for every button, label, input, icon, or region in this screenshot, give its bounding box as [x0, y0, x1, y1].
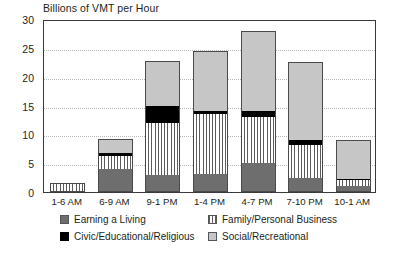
- legend-item-label: Civic/Educational/Religious: [74, 231, 195, 242]
- y-axis-tick-label: 20: [22, 72, 34, 83]
- legend-item-civic[interactable]: Civic/Educational/Religious: [60, 231, 195, 242]
- x-axis-tick-label: 9-1 PM: [138, 196, 186, 208]
- x-axis-tick-label: 1-6 AM: [43, 196, 91, 208]
- plot-inner: [44, 21, 375, 192]
- bar-segment-earning: [288, 178, 323, 192]
- y-axis-tick-label: 0: [28, 188, 34, 199]
- x-axis-tick-label: 6-9 AM: [91, 196, 139, 208]
- x-axis-tick-label: 1-4 PM: [186, 196, 234, 208]
- bar-segment-family: [288, 145, 323, 178]
- bar-segment-family: [193, 114, 228, 174]
- bar-segment-social: [145, 61, 180, 106]
- y-axis: 051015202530: [0, 20, 38, 193]
- y-axis-tick-label: 25: [22, 44, 34, 55]
- y-axis-tick-label: 5: [28, 159, 34, 170]
- legend-item-label: Family/Personal Business: [222, 214, 337, 225]
- bar-segment-earning: [50, 191, 85, 192]
- bar-segment-social: [98, 139, 133, 153]
- legend-swatch-civic-icon: [60, 232, 69, 241]
- bar-segment-civic: [145, 106, 180, 123]
- vmt-stacked-bar-chart: Billions of VMT per Hour 051015202530 1-…: [0, 0, 395, 256]
- bar-stack[interactable]: [98, 139, 133, 192]
- plot-area: [43, 20, 376, 193]
- legend-swatch-earning-icon: [60, 215, 69, 224]
- bar-stack[interactable]: [288, 62, 323, 192]
- bar-segment-social: [288, 62, 323, 140]
- y-axis-tick-label: 30: [22, 15, 34, 26]
- bar-segment-earning: [241, 163, 276, 192]
- bar-stack[interactable]: [50, 183, 85, 192]
- legend-swatch-family-icon: [208, 215, 217, 224]
- bar-stack[interactable]: [193, 51, 228, 192]
- legend-item-label: Social/Recreational: [222, 231, 308, 242]
- x-axis-tick-label: 4-7 PM: [233, 196, 281, 208]
- bar-segment-social: [336, 140, 371, 179]
- x-axis-tick-label: 7-10 PM: [281, 196, 329, 208]
- bar-segment-earning: [193, 174, 228, 192]
- bar-segment-earning: [336, 186, 371, 192]
- y-axis-tick-label: 15: [22, 101, 34, 112]
- bar-segment-family: [145, 123, 180, 175]
- bar-segment-family: [241, 117, 276, 163]
- bar-segment-social: [241, 31, 276, 112]
- legend-item-label: Earning a Living: [74, 214, 146, 225]
- x-axis: 1-6 AM6-9 AM9-1 PM1-4 PM4-7 PM7-10 PM10-…: [43, 196, 376, 210]
- legend-item-social[interactable]: Social/Recreational: [208, 231, 308, 242]
- legend-swatch-social-icon: [208, 232, 217, 241]
- bar-segment-family: [98, 156, 133, 169]
- chart-legend: Earning a LivingFamily/Personal Business…: [60, 214, 380, 248]
- y-axis-tick-label: 10: [22, 130, 34, 141]
- bar-stack[interactable]: [241, 31, 276, 192]
- legend-item-family[interactable]: Family/Personal Business: [208, 214, 337, 225]
- bar-stack[interactable]: [336, 140, 371, 192]
- chart-title: Billions of VMT per Hour: [43, 2, 159, 14]
- bar-segment-social: [193, 51, 228, 111]
- legend-item-earning[interactable]: Earning a Living: [60, 214, 146, 225]
- bar-segment-earning: [145, 175, 180, 192]
- bar-segment-family: [50, 183, 85, 191]
- bar-stack[interactable]: [145, 61, 180, 192]
- x-axis-tick-label: 10-1 AM: [328, 196, 376, 208]
- bar-segment-earning: [98, 169, 133, 192]
